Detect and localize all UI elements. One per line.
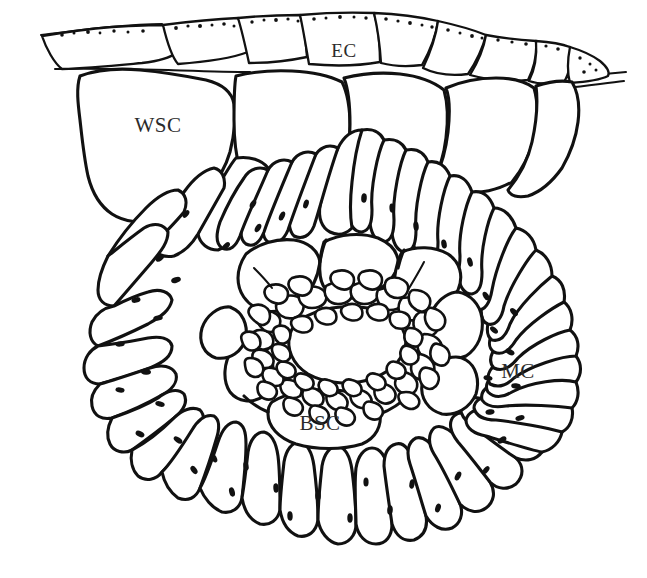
figure-root: EC WSC MC BSC bbox=[0, 0, 647, 578]
label-mc: MC bbox=[501, 359, 535, 383]
label-ec: EC bbox=[331, 40, 356, 61]
leaf-cross-section-drawing: EC WSC MC BSC bbox=[0, 0, 647, 578]
mesophyll-cell-ll-3 bbox=[242, 432, 280, 524]
mesophyll-cell-b-1 bbox=[280, 442, 318, 536]
label-bsc: BSC bbox=[299, 411, 340, 435]
bundle-sheath-cell-8 bbox=[201, 307, 247, 358]
epidermal-cell-2 bbox=[163, 18, 248, 64]
epidermal-cell-3 bbox=[238, 15, 307, 63]
epidermal-cell-9 bbox=[568, 47, 608, 83]
epidermal-cell-8 bbox=[529, 41, 571, 83]
mesophyll-cell-b-2 bbox=[318, 446, 356, 544]
label-wsc: WSC bbox=[134, 113, 181, 137]
